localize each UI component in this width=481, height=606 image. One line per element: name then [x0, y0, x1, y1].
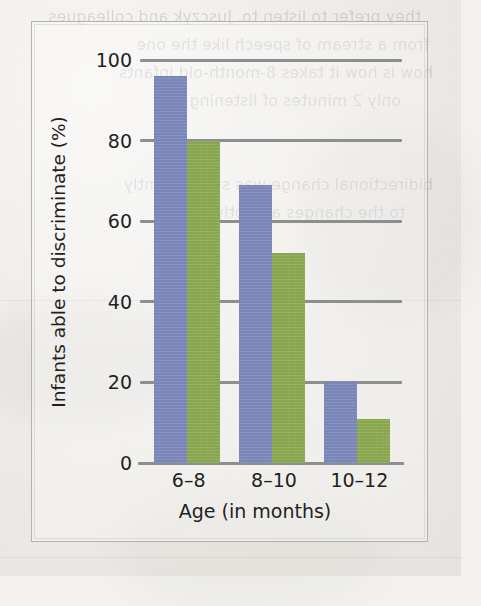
- y-tick-label: 20: [80, 371, 132, 393]
- y-tick-label: 0: [80, 452, 132, 474]
- bar: [154, 76, 187, 463]
- y-tick-label: 60: [80, 210, 132, 232]
- x-axis-tick-labels: 6–88–1010–12: [146, 469, 402, 497]
- bar: [187, 141, 220, 463]
- y-tick-label: 40: [80, 291, 132, 313]
- bar: [324, 382, 357, 463]
- bar-scan-texture: [187, 141, 220, 463]
- y-axis-title: Infants able to discriminate (%): [47, 62, 69, 462]
- bar-scan-texture: [324, 382, 357, 463]
- bar-scan-texture: [357, 419, 390, 463]
- bar: [239, 185, 272, 463]
- bar-scan-texture: [272, 253, 305, 463]
- y-axis-tick-labels: 020406080100: [80, 0, 132, 576]
- x-tick-label: 10–12: [313, 469, 405, 491]
- y-tick-label: 100: [80, 49, 132, 71]
- plot-area: [146, 60, 402, 463]
- x-tick-label: 6–8: [143, 469, 235, 491]
- bar-group: [154, 60, 220, 463]
- bar-group: [239, 60, 305, 463]
- x-axis-title: Age (in months): [110, 500, 400, 522]
- x-tick-label: 8–10: [228, 469, 320, 491]
- bar-scan-texture: [239, 185, 272, 463]
- bar: [272, 253, 305, 463]
- y-tick-label: 80: [80, 130, 132, 152]
- bar-scan-texture: [154, 76, 187, 463]
- bar: [357, 419, 390, 463]
- bar-group: [324, 60, 390, 463]
